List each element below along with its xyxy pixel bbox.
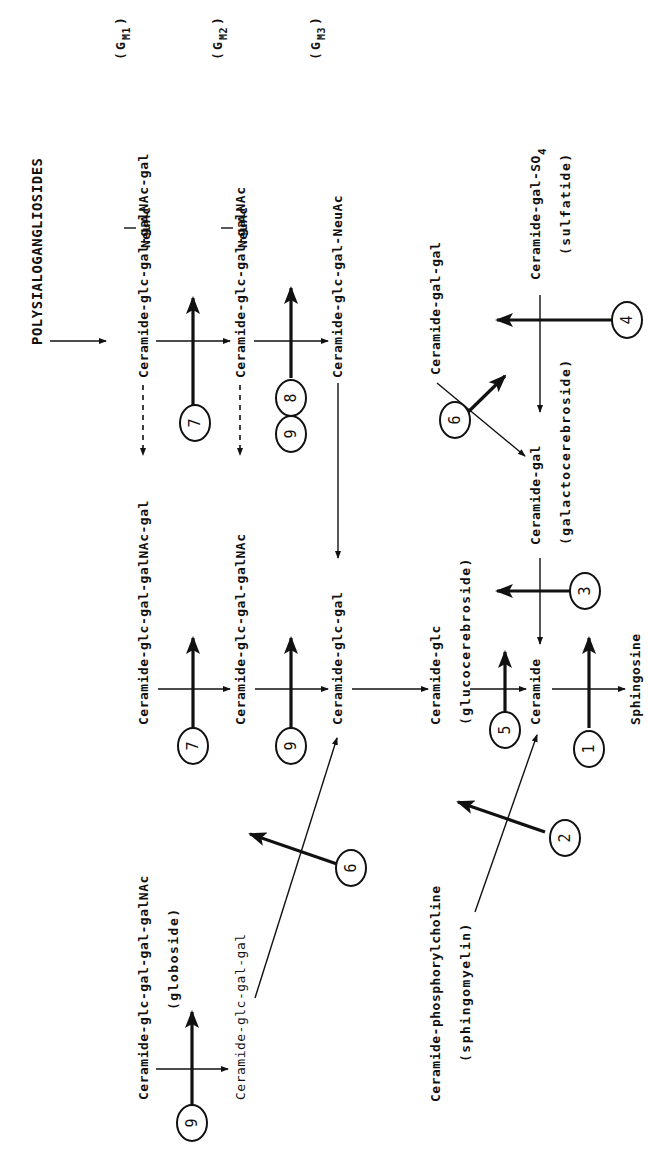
gm1-label: Ceramide-glc-gal-galNAc-gal <box>136 153 151 378</box>
globoside-label: Ceramide-glc-gal-gal-galNAc <box>136 875 151 1100</box>
globoside-note: (globoside) <box>166 907 181 1010</box>
sphingosine-label: Sphingosine <box>628 633 643 725</box>
enzyme-8-number: 8 <box>282 393 300 402</box>
svg-text:): ) <box>113 17 128 25</box>
svg-text:(: ( <box>308 52 323 60</box>
glucocerebroside-note: (glucocerebroside) <box>458 557 473 725</box>
gm1-tag: ( G M1 ) <box>113 17 132 60</box>
svg-text:M1: M1 <box>121 27 132 40</box>
enzyme-6-number-trihexosyl: 6 <box>342 863 360 872</box>
enzyme-1-number: 1 <box>580 744 598 753</box>
enzyme-5-number: 5 <box>496 725 514 734</box>
arrow-sphingomyelin-to-ceramide <box>475 735 537 912</box>
enzyme-6-number-gal: 6 <box>446 415 464 424</box>
neutral-tetra-label: Ceramide-glc-gal-galNAc-gal <box>136 500 151 725</box>
enzyme-4-number: 4 <box>618 315 636 324</box>
enzyme-2-arrow <box>458 802 545 832</box>
gm2-neuac-label: NeuAc <box>235 206 250 248</box>
svg-text:(: ( <box>210 52 225 60</box>
neutral-tri-label: Ceramide-glc-gal-galNAc <box>233 533 248 725</box>
ceramide-label: Ceramide <box>528 658 543 725</box>
digalactosyl-ceramide-label: Ceramide-gal-gal <box>428 242 443 375</box>
enzyme-6-arrow-trihexosyl <box>250 834 337 864</box>
lactosylceramide-label: Ceramide-glc-gal <box>330 592 345 725</box>
enzyme-9-number-neutral: 9 <box>282 741 300 750</box>
svg-text:G: G <box>113 42 128 50</box>
sphingomyelin-note: (sphingomyelin) <box>458 922 473 1062</box>
sulfatide-note: (sulfatide) <box>558 152 573 255</box>
trihexosyl-ceramide-label: Ceramide-glc-gal-gal <box>233 933 248 1100</box>
enzyme-2-number: 2 <box>556 833 574 842</box>
svg-text:(: ( <box>113 52 128 60</box>
svg-text:): ) <box>308 17 323 25</box>
arrow-trihexosyl-to-lactosyl <box>255 738 337 998</box>
enzyme-9-number-globoside: 9 <box>183 1118 201 1127</box>
enzyme-7-number-neutral: 7 <box>184 741 202 750</box>
sulfatide-label: Ceramide-gal-SO4 <box>528 148 549 280</box>
enzyme-3-number: 3 <box>576 586 594 595</box>
svg-text:G: G <box>210 42 225 50</box>
gm2-tag: ( G M2 ) <box>210 17 229 60</box>
gm3-label: Ceramide-glc-gal-NeuAc <box>330 195 345 378</box>
polysialogangliosides-label: POLYSIALOGANGLIOSIDES <box>29 157 45 345</box>
svg-text:): ) <box>210 17 225 25</box>
svg-text:M3: M3 <box>316 27 327 40</box>
sphingolipid-degradation-diagram: POLYSIALOGANGLIOSIDES Ceramide-glc-gal-g… <box>0 0 648 1160</box>
enzyme-7-number-gm1: 7 <box>186 418 204 427</box>
galactocerebroside-note: (galactocerebroside) <box>558 358 573 545</box>
svg-text:G: G <box>308 42 323 50</box>
sphingomyelin-label: Ceramide-phosphorylcholine <box>428 886 443 1103</box>
gm1-neuac-label: NeuAc <box>138 206 153 248</box>
enzyme-9-number-gm2: 9 <box>282 429 300 438</box>
svg-text:M2: M2 <box>218 27 229 40</box>
gm3-tag: ( G M3 ) <box>308 17 327 60</box>
glucocerebroside-label: Ceramide-glc <box>428 625 443 725</box>
galactocerebroside-label: Ceramide-gal <box>528 445 543 545</box>
